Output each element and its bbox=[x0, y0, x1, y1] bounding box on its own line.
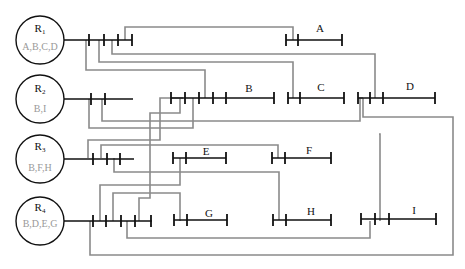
resource-r1[interactable]: R1 A,B,C,D bbox=[16, 16, 132, 64]
segment-label: H bbox=[307, 205, 315, 217]
segment-label: E bbox=[203, 145, 210, 157]
segment-e[interactable]: E bbox=[173, 145, 226, 164]
segment-label: G bbox=[205, 207, 213, 219]
segment-b[interactable]: B bbox=[171, 82, 274, 104]
resource-contents: B,D,E,G bbox=[23, 218, 58, 229]
segment-label: B bbox=[245, 82, 252, 94]
segment-a[interactable]: A bbox=[286, 22, 342, 46]
wire-r1-b bbox=[86, 40, 205, 98]
segment-h[interactable]: H bbox=[273, 205, 331, 226]
diagram-canvas: R1 A,B,C,D R2 B,I R3 B,F,H R4 B,D,E,G bbox=[0, 0, 465, 269]
wire-i-feed bbox=[379, 134, 380, 221]
segment-label: A bbox=[316, 22, 324, 34]
wire-r2-i bbox=[102, 98, 363, 121]
resource-r3[interactable]: R3 B,F,H bbox=[16, 135, 134, 183]
segment-label: D bbox=[406, 80, 414, 92]
segment-g[interactable]: G bbox=[174, 207, 227, 226]
wire-r1-a bbox=[125, 27, 293, 40]
segment-f[interactable]: F bbox=[272, 144, 331, 164]
wire-r1-c bbox=[99, 40, 293, 98]
wire-r4-i bbox=[127, 221, 370, 238]
wire-r1-d bbox=[112, 40, 375, 98]
resource-contents: B,I bbox=[34, 103, 47, 114]
resource-contents: A,B,C,D bbox=[22, 41, 57, 52]
wire-r4-e bbox=[100, 158, 180, 221]
segment-label: I bbox=[412, 204, 416, 216]
resource-contents: B,F,H bbox=[28, 162, 52, 173]
wire-r3-f bbox=[101, 145, 278, 158]
segment-label: C bbox=[317, 81, 324, 93]
segment-label: F bbox=[306, 144, 312, 156]
segment-i[interactable]: I bbox=[361, 204, 436, 225]
segment-d[interactable]: D bbox=[358, 80, 435, 104]
resource-r2[interactable]: R2 B,I bbox=[16, 75, 133, 123]
segment-c[interactable]: C bbox=[288, 81, 344, 104]
